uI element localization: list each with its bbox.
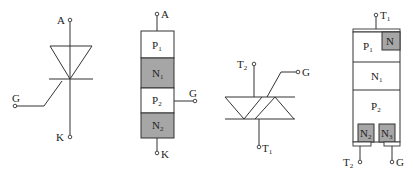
t2-electrode bbox=[353, 142, 371, 146]
scr-symbol: A G K bbox=[12, 14, 93, 143]
t1-label: T1 bbox=[380, 9, 391, 23]
gate-terminal bbox=[13, 104, 17, 108]
cathode-terminal bbox=[155, 151, 159, 155]
t1-label: T1 bbox=[262, 142, 273, 156]
t1-terminal bbox=[374, 13, 378, 17]
cathode-label: K bbox=[56, 131, 64, 143]
t1-terminal bbox=[257, 145, 261, 149]
thyristor-diagram: A G K A P1 N1 P2 N2 G K T2 G bbox=[0, 0, 411, 174]
anode-label: A bbox=[161, 8, 169, 20]
triangle-down-icon bbox=[225, 97, 262, 119]
region-n-label: N bbox=[386, 35, 394, 47]
gate-electrode bbox=[384, 142, 400, 146]
gate-terminal bbox=[390, 160, 394, 164]
gate-label: G bbox=[302, 66, 310, 78]
anode-terminal bbox=[155, 12, 159, 16]
cathode-label: K bbox=[161, 148, 169, 160]
t2-label: T2 bbox=[237, 58, 248, 72]
cathode-terminal bbox=[68, 135, 72, 139]
gate-lead bbox=[267, 72, 296, 97]
triac-symbol: T2 G T1 bbox=[225, 58, 310, 156]
triac-structure: T1 N P1 N1 P2 N2 N3 T2 G bbox=[343, 9, 404, 170]
gate-lead bbox=[16, 81, 62, 106]
anode-terminal bbox=[68, 18, 72, 22]
diode-triangle-icon bbox=[50, 46, 92, 79]
gate-terminal bbox=[193, 99, 197, 103]
gate-label: G bbox=[189, 87, 197, 99]
gate-label: G bbox=[396, 156, 404, 168]
t2-label: T2 bbox=[343, 156, 354, 170]
t2-terminal bbox=[252, 62, 256, 66]
t2-terminal bbox=[358, 160, 362, 164]
gate-terminal bbox=[296, 70, 300, 74]
scr-structure: A P1 N1 P2 N2 G K bbox=[141, 8, 197, 160]
gate-label: G bbox=[12, 92, 20, 104]
anode-label: A bbox=[57, 14, 65, 26]
triangle-up-icon bbox=[255, 97, 294, 119]
